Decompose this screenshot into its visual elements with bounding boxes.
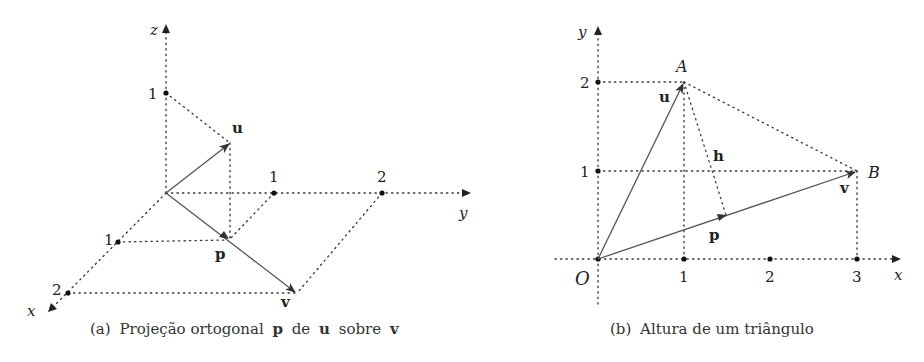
caption-a-u: u [319,320,330,338]
caption-b: (b) Altura de um triângulo [610,320,814,338]
y-axis-b-arrow-icon [594,26,602,35]
segment-AB [684,82,857,171]
tick-label-x1: 1 [104,231,114,249]
tick-label-y1: 1 [269,168,279,186]
guide-y1-to-p [230,193,274,239]
caption-a-v: v [389,320,400,338]
tick-y2 [379,190,384,195]
z-axis-arrow-icon [162,24,170,33]
point-B-label: B [867,163,880,182]
caption-a-p: p [272,320,283,338]
x-axis [53,193,166,307]
tick-label-x2: 2 [52,281,62,299]
caption-b-prefix: (b) [610,320,631,338]
vector-v-label: v [280,293,291,311]
tick-b-x3 [854,256,859,261]
tick-x2 [65,290,70,295]
tick-z1 [163,90,168,95]
point-A-label: A [674,57,688,76]
figure-canvas: z y x 1 1 2 1 2 u v p (a) Projeção ortog… [0,0,924,362]
y-axis-label: y [458,204,468,222]
tick-label-b-x1: 1 [679,268,689,286]
x-axis-arrow-icon [48,303,57,312]
vector-u [166,144,229,193]
guide-z1-to-u [166,93,230,143]
x-axis-b-arrow-icon [892,255,901,263]
caption-a-text-3: sobre [339,320,382,338]
tick-label-b-x3: 3 [852,268,862,286]
guide-y2-to-v [298,193,382,292]
y-axis-arrow-icon [462,189,471,197]
vector-b-p-label: p [709,226,720,244]
x-axis-b-label: x [894,266,903,284]
caption-a-prefix: (a) [90,320,111,338]
tick-b-x1 [681,256,686,261]
caption-a-text-2: de [292,320,311,338]
origin-label: O [575,268,590,289]
vector-u-label: u [232,119,243,137]
tick-label-z1: 1 [148,85,158,103]
z-axis-label: z [149,21,158,39]
tick-label-b-y2: 2 [580,74,590,92]
tick-label-y2: 2 [377,168,387,186]
caption-a-text-1: Projeção ortogonal [119,320,263,338]
guide-x1-to-p [118,240,227,242]
vector-b-p-arrow-icon [717,214,727,221]
tick-b-y1 [595,168,600,173]
caption-a: (a) Projeção ortogonal p de u sobre v [90,320,400,338]
tick-y1 [271,190,276,195]
vector-b-v-label: v [839,179,850,197]
x-axis-label: x [27,302,36,320]
vector-b-u-label: u [659,88,670,106]
panel-a-3d-projection: z y x 1 1 2 1 2 u v p (a) Projeção ortog… [27,21,471,338]
panel-b-triangle-height: y x 2 1 1 2 3 O A B u v p h (b) Altura d… [555,23,903,338]
vector-v [166,193,295,292]
tick-x1 [115,239,120,244]
y-axis-b-label: y [577,23,587,41]
caption-b-text: Altura de um triângulo [639,320,814,338]
tick-b-x2 [767,256,772,261]
height-h-label: h [713,147,724,165]
tick-b-y2 [595,79,600,84]
tick-label-b-x2: 2 [765,268,775,286]
vector-b-v [598,172,855,259]
vector-p-label: p [215,245,226,263]
tick-label-b-y1: 1 [580,163,590,181]
